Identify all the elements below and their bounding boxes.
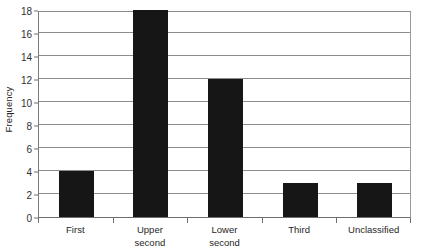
x-axis-tick-label-line: Lower	[212, 224, 238, 235]
bar	[357, 183, 392, 218]
x-axis-tick-mark	[336, 218, 337, 223]
plot-area	[38, 11, 411, 218]
x-axis-tick-label: Third	[262, 224, 337, 237]
y-axis-tick-label: 18	[21, 6, 32, 17]
x-axis-tick-label-line: Upper	[137, 224, 163, 235]
bar-chart: Frequency 024681012141618 FirstUpperseco…	[0, 0, 421, 252]
y-axis-tick-labels: 024681012141618	[0, 11, 38, 219]
x-axis-tick-label: Uppersecond	[113, 224, 188, 249]
x-axis-tick-mark	[410, 218, 411, 223]
y-axis-tick-label: 6	[26, 144, 32, 155]
x-axis-tick-label: Lowersecond	[187, 224, 262, 249]
x-axis-tick-mark	[187, 218, 188, 223]
y-axis-tick-label: 14	[21, 52, 32, 63]
bars-layer	[39, 12, 410, 217]
x-axis-tick-mark	[113, 218, 114, 223]
bar	[208, 79, 243, 217]
x-axis-tick-mark	[38, 218, 39, 223]
x-axis-tick-label: Unclassified	[336, 224, 411, 237]
bar	[133, 10, 168, 217]
y-axis-tick-label: 4	[26, 167, 32, 178]
y-axis-tick-label: 0	[26, 213, 32, 224]
x-axis-tick-labels: FirstUppersecondLowersecondThirdUnclassi…	[38, 224, 411, 252]
y-axis-tick-label: 10	[21, 98, 32, 109]
x-axis-tick-label-line: second	[113, 237, 188, 250]
x-axis-tick-label-line: First	[66, 224, 84, 235]
x-axis-tick-label-line: second	[187, 237, 262, 250]
y-axis-tick-label: 16	[21, 29, 32, 40]
x-axis-tick-mark	[262, 218, 263, 223]
y-axis-tick-label: 8	[26, 121, 32, 132]
x-axis-tick-label: First	[38, 224, 113, 237]
bar	[283, 183, 318, 218]
y-axis-tick-label: 12	[21, 75, 32, 86]
bar	[59, 171, 94, 217]
y-axis-tick-label: 2	[26, 190, 32, 201]
x-axis-tick-label-line: Third	[288, 224, 310, 235]
x-axis-tick-label-line: Unclassified	[348, 224, 399, 235]
